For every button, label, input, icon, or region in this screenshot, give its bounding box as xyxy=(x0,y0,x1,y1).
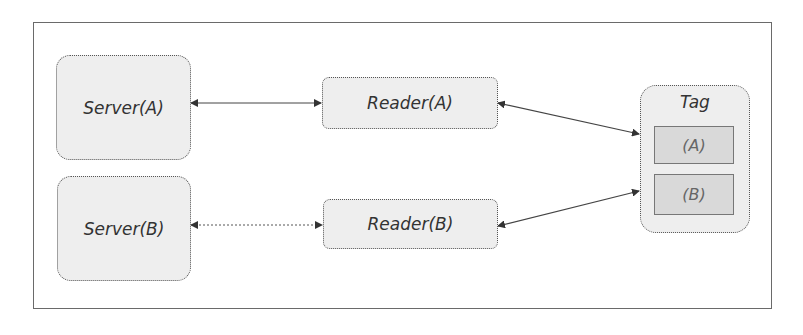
arrow-reader-a-tag xyxy=(498,103,639,134)
tag-slot-b: (B) xyxy=(654,174,734,215)
tag-slot-b-label: (B) xyxy=(682,185,705,204)
server-a-node: Server(A) xyxy=(56,55,191,160)
tag-node: Tag (A) (B) xyxy=(640,85,750,233)
arrow-reader-b-tag xyxy=(498,191,639,226)
server-b-node: Server(B) xyxy=(57,176,191,281)
reader-a-label: Reader(A) xyxy=(367,93,453,113)
tag-label: Tag xyxy=(641,92,749,112)
reader-b-node: Reader(B) xyxy=(323,199,498,249)
reader-a-node: Reader(A) xyxy=(322,77,498,129)
reader-b-label: Reader(B) xyxy=(368,214,454,234)
server-a-label: Server(A) xyxy=(83,98,164,118)
tag-slot-a: (A) xyxy=(654,126,734,164)
tag-slot-a-label: (A) xyxy=(682,136,705,155)
server-b-label: Server(B) xyxy=(84,219,165,239)
